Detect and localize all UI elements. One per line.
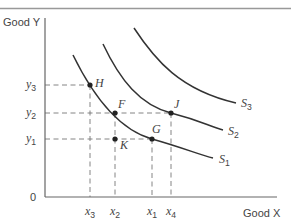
- x-tick-x1: x1: [146, 204, 157, 220]
- curve-s3: [134, 28, 236, 103]
- x-tick-x3: x3: [84, 204, 95, 220]
- y-tick-y2: y2: [25, 105, 36, 121]
- x-tick-x2: x2: [109, 204, 120, 220]
- curve-s2: [103, 44, 223, 130]
- point-h: [87, 82, 92, 87]
- curve-label-s3: S3: [241, 96, 252, 112]
- point-f: [112, 110, 117, 115]
- y-tick-y1: y1: [25, 131, 36, 147]
- point-label-j: J: [174, 97, 180, 111]
- point-label-k: K: [119, 138, 129, 152]
- point-k: [112, 136, 117, 141]
- y-axis-label: Good Y: [3, 16, 41, 28]
- x-tick-x4: x4: [165, 204, 176, 220]
- point-label-g: G: [152, 122, 161, 136]
- point-g: [149, 136, 154, 141]
- x-tick-labels: x3x2x1x4: [84, 204, 176, 220]
- y-tick-labels: y3y2y1: [25, 77, 36, 147]
- y-tick-y3: y3: [25, 77, 36, 93]
- curve-label-s2: S2: [228, 124, 239, 140]
- origin-label: 0: [30, 191, 36, 203]
- indifference-curves: S1S2S3: [73, 28, 252, 168]
- point-label-h: H: [94, 76, 105, 90]
- x-axis-label: Good X: [243, 207, 281, 219]
- points: HFJGK: [87, 76, 180, 152]
- point-j: [168, 110, 173, 115]
- curve-label-s1: S1: [219, 152, 230, 168]
- point-label-f: F: [117, 97, 126, 111]
- curve-s1: [73, 55, 213, 158]
- indifference-curve-diagram: Good Y Good X 0 S1S2S3 y3y2y1 x3x2x1x4 H…: [0, 0, 291, 224]
